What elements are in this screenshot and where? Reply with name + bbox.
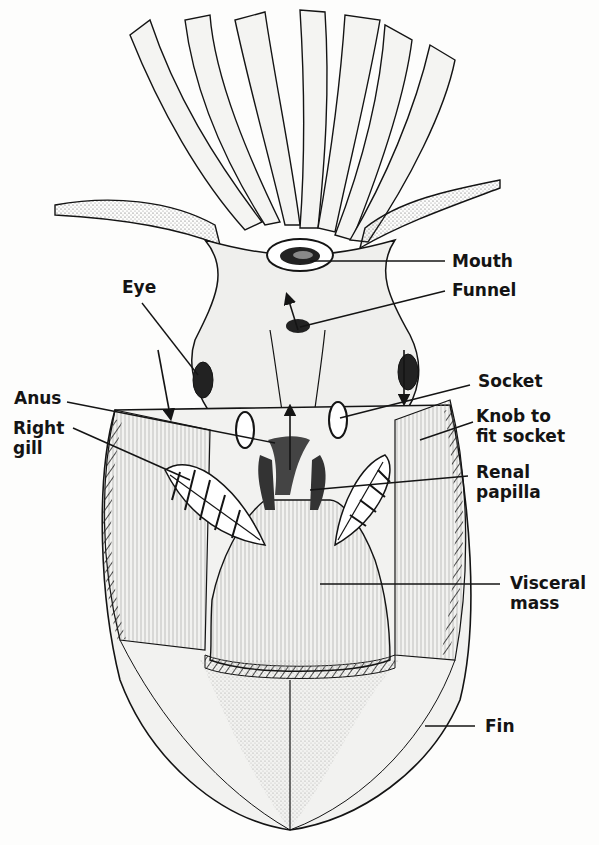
label-funnel: Funnel [452,280,516,300]
right-eye [398,354,418,390]
label-eye: Eye [122,277,156,297]
label-knob-line2: fit socket [476,426,565,446]
label-knob-to-fit-socket: Knob to fit socket [476,406,565,446]
label-right-gill-line2: gill [13,438,64,458]
label-renal-line1: Renal [476,462,541,482]
label-fin: Fin [485,716,515,736]
left-mantle-flap [104,410,210,650]
label-visceral-line2: mass [510,593,586,613]
label-mouth: Mouth [452,251,513,271]
label-anus: Anus [14,388,61,408]
label-knob-line1: Knob to [476,406,565,426]
label-right-gill: Right gill [13,418,64,458]
squid-anatomy-figure: Mouth Funnel Eye Socket Anus Knob to fit… [0,0,599,845]
right-socket [329,402,347,438]
label-right-gill-line1: Right [13,418,64,438]
label-renal-papilla: Renal papilla [476,462,541,502]
left-socket [236,412,254,448]
label-renal-line2: papilla [476,482,541,502]
left-eye [193,362,213,398]
label-visceral-line1: Visceral [510,573,586,593]
label-visceral-mass: Visceral mass [510,573,586,613]
label-socket: Socket [478,371,543,391]
left-arm-club [55,200,220,245]
